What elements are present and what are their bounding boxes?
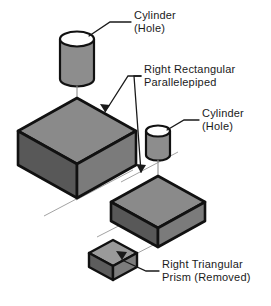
label-prism-line2: Prism (Removed) xyxy=(162,271,251,283)
label-cylinder-lower-line2: (Hole) xyxy=(202,120,233,132)
leader-cylinder-lower xyxy=(167,120,199,130)
block-small xyxy=(111,176,205,247)
label-parallelepiped-line1: Right Rectangular xyxy=(144,63,236,75)
label-prism: Right Triangular Prism (Removed) xyxy=(162,258,251,283)
label-prism-line1: Right Triangular xyxy=(162,258,243,270)
label-cylinder-upper-line2: (Hole) xyxy=(134,22,165,34)
cylinder-upper xyxy=(60,32,94,87)
label-cylinder-lower: Cylinder (Hole) xyxy=(202,107,244,132)
figure-canvas: Cylinder (Hole) Right Rectangular Parall… xyxy=(0,0,271,306)
isometric-diagram: Cylinder (Hole) Right Rectangular Parall… xyxy=(0,0,271,306)
cylinder-lower xyxy=(146,126,170,161)
block-large xyxy=(18,98,136,198)
label-parallelepiped-line2: Parallelepiped xyxy=(144,76,217,88)
label-parallelepiped: Right Rectangular Parallelepiped xyxy=(144,63,236,88)
cylinder-lower-top-face xyxy=(146,126,170,137)
leader-cylinder-upper xyxy=(89,22,131,36)
arrowhead-parallelepiped-b xyxy=(136,164,146,173)
label-cylinder-lower-line1: Cylinder xyxy=(202,107,244,119)
cylinder-upper-top-face xyxy=(60,32,94,47)
label-cylinder-upper-line1: Cylinder xyxy=(134,9,176,21)
prism-small xyxy=(89,240,137,280)
label-cylinder-upper: Cylinder (Hole) xyxy=(134,9,176,34)
